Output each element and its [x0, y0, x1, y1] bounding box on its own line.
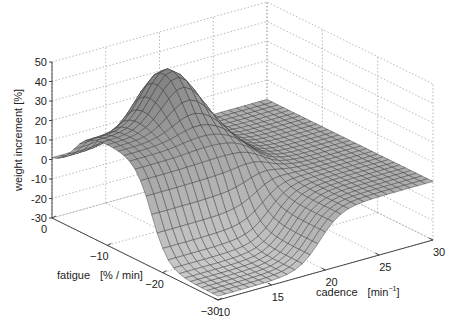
z-tick-label: -10 — [31, 173, 47, 185]
surface-plot: -30-20-10010203040500−10−20−301015202530… — [0, 0, 464, 320]
fatigue-tick-label: −10 — [90, 250, 109, 262]
z-tick-label: 40 — [35, 76, 47, 88]
cadence-axis-label: cadence[min−1] — [316, 285, 399, 298]
cadence-tick-label: 30 — [433, 246, 445, 258]
z-tick-label: 10 — [35, 134, 47, 146]
fatigue-tick-label: −30 — [201, 305, 220, 317]
cadence-tick-label: 10 — [218, 306, 230, 318]
z-tick-label: 0 — [41, 154, 47, 166]
surface-mesh — [52, 69, 433, 296]
fatigue-tick-label: 0 — [41, 223, 47, 235]
fatigue-axis-label: fatigue[% / min] — [57, 269, 143, 281]
z-tick-label: 20 — [35, 115, 47, 127]
z-tick-label: 50 — [35, 56, 47, 68]
z-axis-label: weight increment [%] — [12, 89, 24, 192]
z-tick-label: 30 — [35, 95, 47, 107]
fatigue-tick-label: −20 — [145, 278, 164, 290]
cadence-tick-label: 15 — [272, 291, 284, 303]
cadence-tick-label: 25 — [379, 261, 391, 273]
z-tick-label: -20 — [31, 193, 47, 205]
